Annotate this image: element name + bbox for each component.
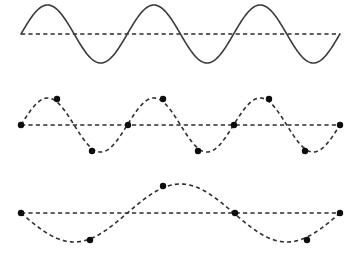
wave-marker-dot	[231, 122, 237, 128]
wave-middle-group	[18, 96, 343, 154]
wave-marker-dot	[89, 148, 95, 154]
wave-marker-dot	[232, 210, 238, 216]
wave-figure	[0, 0, 359, 262]
wave-marker-dot	[302, 148, 308, 154]
wave-marker-dot	[337, 210, 343, 216]
wave-marker-dot	[18, 122, 24, 128]
wave-marker-dot	[337, 122, 343, 128]
wave-marker-dot	[195, 148, 201, 154]
wave-marker-dot	[160, 183, 166, 189]
wave-marker-dot	[87, 237, 93, 243]
wave-marker-dot	[125, 122, 131, 128]
wave-bottom-group	[18, 183, 343, 243]
wave-marker-dot	[160, 96, 166, 102]
wave-diagram-canvas	[0, 0, 359, 262]
wave-marker-dot	[266, 96, 272, 102]
wave-marker-dot	[54, 96, 60, 102]
wave-top-group	[21, 5, 340, 63]
wave-marker-dot	[18, 210, 24, 216]
wave-marker-dot	[304, 237, 310, 243]
